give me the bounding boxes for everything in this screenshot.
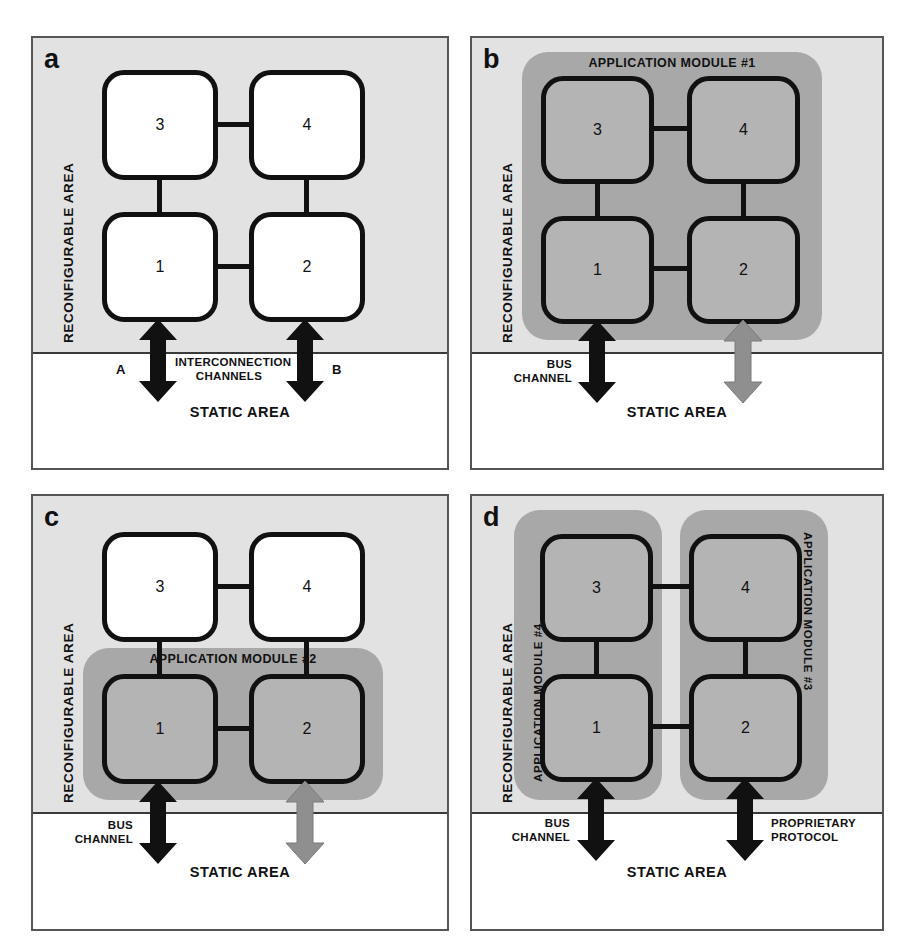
panel-b-conn-3-1 <box>595 181 600 219</box>
panel-c-letter: c <box>44 504 59 531</box>
panel-d-proprietary-protocol-channel-arrow <box>724 777 766 862</box>
panel-d-bus-channel-label-line2: CHANNEL <box>500 831 570 844</box>
figure-root: a RECONFIGURABLE AREA 3 4 1 2 A B INTERC… <box>0 0 913 951</box>
panel-b-block-3: 3 <box>541 76 654 184</box>
panel-d-conn-3-1 <box>594 639 599 677</box>
panel-d-block-2: 2 <box>689 674 802 782</box>
panel-d-application-module-3-label: APPLICATION MODULE #3 <box>802 532 814 691</box>
panel-d: d RECONFIGURABLE AREA APPLICATION MODULE… <box>470 494 884 931</box>
panel-d-block-3: 3 <box>540 534 653 642</box>
panel-a-label-b: B <box>332 362 341 377</box>
panel-a-conn-1-2 <box>215 264 252 269</box>
panel-b-block-4: 4 <box>687 76 800 184</box>
panel-d-static-label: STATIC AREA <box>472 864 882 880</box>
panel-d-bus-channel-arrow <box>575 777 617 862</box>
panel-d-proprietary-protocol-label-line2: PROTOCOL <box>771 831 881 844</box>
panel-b-letter: b <box>483 46 499 73</box>
panel-a-interconnection-channels-label-line1: INTERCONNECTION <box>175 356 283 369</box>
panel-a-block-4: 4 <box>249 70 365 180</box>
panel-c-conn-3-1 <box>157 639 162 677</box>
panel-a-letter: a <box>44 46 59 73</box>
panel-d-conn-4-2 <box>743 639 748 677</box>
panel-c-conn-4-2 <box>304 639 309 677</box>
panel-a-block-3: 3 <box>102 70 218 180</box>
panel-b: b RECONFIGURABLE AREA APPLICATION MODULE… <box>470 36 884 470</box>
panel-a: a RECONFIGURABLE AREA 3 4 1 2 A B INTERC… <box>31 36 449 470</box>
panel-d-conn-3-4 <box>650 584 692 589</box>
panel-b-bus-channel-arrow <box>576 319 618 404</box>
panel-b-conn-3-4 <box>651 126 690 131</box>
panel-d-reconfigurable-label: RECONFIGURABLE AREA <box>500 623 515 803</box>
panel-a-block-1: 1 <box>102 212 218 322</box>
panel-c-inactive-channel-arrow <box>284 780 326 865</box>
panel-a-channel-a-arrow <box>137 318 179 403</box>
panel-a-conn-4-2 <box>304 177 309 215</box>
panel-c-bus-channel-label-line2: CHANNEL <box>61 833 133 846</box>
panel-c-conn-1-2 <box>215 726 252 731</box>
panel-a-conn-3-4 <box>215 122 252 127</box>
panel-c-block-3: 3 <box>102 532 218 642</box>
panel-a-conn-3-1 <box>157 177 162 215</box>
panel-c-bus-channel-arrow <box>137 780 179 865</box>
panel-b-conn-1-2 <box>651 266 690 271</box>
panel-b-application-module-1-label: APPLICATION MODULE #1 <box>522 56 822 70</box>
panel-c-block-4: 4 <box>249 532 365 642</box>
panel-a-reconfigurable-label: RECONFIGURABLE AREA <box>61 163 76 343</box>
panel-b-bus-channel-label-line2: CHANNEL <box>500 372 572 385</box>
panel-c-reconfigurable-label: RECONFIGURABLE AREA <box>61 623 76 803</box>
panel-b-static-label: STATIC AREA <box>472 404 882 420</box>
panel-c-conn-3-4 <box>215 584 252 589</box>
panel-c-application-module-2-label: APPLICATION MODULE #2 <box>83 652 383 666</box>
panel-c-block-1: 1 <box>102 674 218 784</box>
panel-c-static-label: STATIC AREA <box>33 864 447 880</box>
panel-d-letter: d <box>483 504 499 531</box>
panel-d-block-1: 1 <box>540 674 653 782</box>
panel-d-block-4: 4 <box>689 534 802 642</box>
panel-a-block-2: 2 <box>249 212 365 322</box>
panel-b-conn-4-2 <box>741 181 746 219</box>
panel-a-label-a: A <box>116 362 125 377</box>
panel-a-reconfigurable-area <box>33 38 447 354</box>
panel-c-bus-channel-label-line1: BUS <box>61 819 133 832</box>
panel-b-bus-channel-label-line1: BUS <box>500 358 572 371</box>
panel-b-block-2: 2 <box>687 216 800 324</box>
panel-c: c RECONFIGURABLE AREA APPLICATION MODULE… <box>31 494 449 931</box>
panel-d-conn-1-2 <box>650 724 692 729</box>
panel-d-bus-channel-label-line1: BUS <box>500 817 570 830</box>
panel-b-inactive-channel-arrow <box>722 319 764 404</box>
panel-a-interconnection-channels-label-line2: CHANNELS <box>175 370 283 383</box>
panel-b-block-1: 1 <box>541 216 654 324</box>
panel-a-static-label: STATIC AREA <box>33 404 447 420</box>
panel-b-reconfigurable-label: RECONFIGURABLE AREA <box>500 163 515 343</box>
panel-c-block-2: 2 <box>249 674 365 784</box>
panel-d-proprietary-protocol-label-line1: PROPRIETARY <box>771 817 881 830</box>
